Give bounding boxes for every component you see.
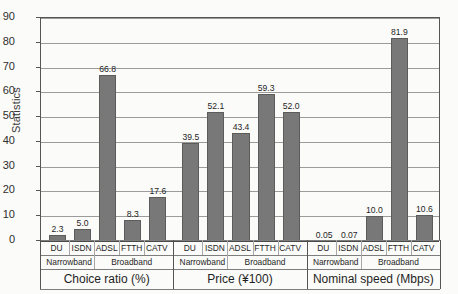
axis-category-du: DU [177, 240, 202, 255]
bar [283, 112, 300, 241]
bar-value-label: 5.0 [77, 218, 89, 228]
axis-category-separator [336, 240, 337, 255]
bar [416, 215, 433, 241]
panel-title: Nominal speed (Mbps) [307, 269, 440, 289]
panel-title: Price (¥100) [173, 269, 306, 289]
axis-category-separator [69, 240, 70, 255]
axis-category-catv: CATV [144, 240, 169, 255]
axis-category-ftth: FTTH [119, 240, 144, 255]
bar [258, 94, 275, 241]
axis-category-separator [94, 240, 95, 255]
axis-category-du: DU [311, 240, 336, 255]
plot-area: 2.35.066.88.317.639.552.143.459.352.00.0… [40, 17, 440, 240]
bar-value-label: 10.0 [366, 205, 383, 215]
bar-value-label: 52.0 [283, 101, 300, 111]
bar-value-label: 17.6 [149, 186, 166, 196]
axis-category-separator [202, 240, 203, 255]
axis-category-adsl: ADSL [361, 240, 386, 255]
bar [391, 38, 408, 241]
bar-value-label: 0.05 [316, 230, 333, 240]
axis-category-adsl: ADSL [94, 240, 119, 255]
axis-band-row: NarrowbandBroadbandNarrowbandBroadbandNa… [40, 255, 440, 269]
y-tick-label-40: 40 [0, 134, 15, 146]
bar [207, 112, 224, 241]
y-tick-label-80: 80 [0, 35, 15, 47]
bar-value-label: 59.3 [258, 83, 275, 93]
axis-category-isdn: ISDN [69, 240, 94, 255]
axis-category-ftth: FTTH [253, 240, 278, 255]
bar-value-label: 52.1 [208, 101, 225, 111]
axis-tier-rule-3 [40, 289, 440, 290]
axis-category-isdn: ISDN [336, 240, 361, 255]
axis-category-separator [119, 240, 120, 255]
axis-band-separator [361, 255, 362, 269]
axis-category-separator [361, 240, 362, 255]
y-tick-mark-90 [36, 17, 40, 18]
axis-category-separator [253, 240, 254, 255]
y-tick-mark-70 [36, 67, 40, 68]
axis-category-du: DU [44, 240, 69, 255]
axis-band-separator [94, 255, 95, 269]
y-tick-label-20: 20 [0, 183, 15, 195]
axis-outer-border-right [440, 269, 441, 289]
axis-band-broadband: Broadband [361, 255, 436, 269]
axis-category-separator [386, 240, 387, 255]
bar-value-label: 8.3 [127, 209, 139, 219]
y-tick-mark-10 [36, 215, 40, 216]
y-tick-mark-20 [36, 190, 40, 191]
axis-band-narrowband: Narrowband [311, 255, 361, 269]
bar-value-label: 39.5 [182, 132, 199, 142]
axis-band-broadband: Broadband [227, 255, 302, 269]
chart-figure: Statistics 0102030405060708090 2.35.066.… [0, 0, 458, 294]
axis-category-row: DUISDNADSLFTTHCATVDUISDNADSLFTTHCATVDUIS… [40, 240, 440, 255]
axis-category-separator [227, 240, 228, 255]
y-tick-label-10: 10 [0, 208, 15, 220]
y-tick-mark-60 [36, 91, 40, 92]
bar [366, 216, 383, 241]
bar [232, 133, 249, 241]
y-tick-mark-80 [36, 42, 40, 43]
axis-outer-border-right [440, 240, 441, 255]
y-tick-mark-50 [36, 116, 40, 117]
axis-band-narrowband: Narrowband [44, 255, 94, 269]
axis-panel-separator-outer [173, 240, 174, 289]
axis-category-separator [144, 240, 145, 255]
gridline-80 [41, 43, 439, 44]
axis-category-isdn: ISDN [202, 240, 227, 255]
bar [99, 75, 116, 241]
axis-category-catv: CATV [411, 240, 436, 255]
y-tick-label-0: 0 [0, 233, 15, 245]
panel-title: Choice ratio (%) [40, 269, 173, 289]
y-tick-label-30: 30 [0, 159, 15, 171]
y-tick-label-50: 50 [0, 109, 15, 121]
bar-value-label: 81.9 [391, 27, 408, 37]
bar-value-label: 0.07 [341, 230, 358, 240]
axis-band-broadband: Broadband [94, 255, 169, 269]
axis-category-ftth: FTTH [386, 240, 411, 255]
bar-value-label: 2.3 [52, 224, 64, 234]
y-tick-mark-0 [36, 240, 40, 241]
y-tick-mark-40 [36, 141, 40, 142]
y-tick-label-90: 90 [0, 10, 15, 22]
y-tick-label-60: 60 [0, 84, 15, 96]
axis-category-separator [278, 240, 279, 255]
axis-outer-border-left [40, 240, 41, 255]
axis-band-separator [227, 255, 228, 269]
bar-value-label: 66.8 [99, 64, 116, 74]
axis-outer-border-right [440, 255, 441, 269]
y-tick-label-70: 70 [0, 60, 15, 72]
y-tick-mark-30 [36, 166, 40, 167]
gridline-90 [41, 18, 439, 19]
bar-value-label: 10.6 [416, 204, 433, 214]
bar [182, 143, 199, 241]
axis-panel-title-row: Choice ratio (%)Price (¥100)Nominal spee… [40, 269, 440, 289]
axis-category-catv: CATV [278, 240, 303, 255]
axis-outer-border-left [40, 255, 41, 269]
axis-band-narrowband: Narrowband [177, 255, 227, 269]
axis-outer-border-left [40, 269, 41, 289]
axis-category-adsl: ADSL [227, 240, 252, 255]
axis-category-separator [411, 240, 412, 255]
axis-panel-separator-outer [307, 240, 308, 289]
bar [149, 197, 166, 241]
bar-value-label: 43.4 [233, 122, 250, 132]
